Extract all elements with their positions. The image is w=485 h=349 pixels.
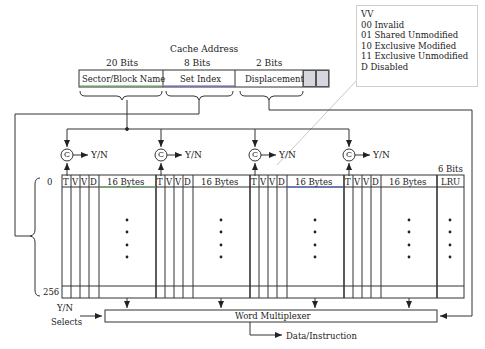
legend-line: VV (361, 9, 473, 20)
displacement-bits-label: 2 Bits (256, 58, 282, 68)
mux-input-selects-label: Selects (51, 317, 82, 327)
mux-input-yn-label: Y/N (57, 303, 73, 313)
valid-column-header: V (363, 177, 369, 187)
set-index-bits-label: 8 Bits (184, 58, 210, 68)
word-multiplexer-label: Word Multiplexer (235, 311, 311, 321)
comparator-icon: C (346, 150, 352, 160)
tag-column-header: T (251, 177, 257, 187)
cache-address-title: Cache Address (170, 44, 238, 54)
data-instruction-output-label: Data/Instruction (286, 331, 357, 341)
comparator-icon: C (64, 150, 70, 160)
legend-line: 00 Invalid (361, 20, 473, 31)
comparator-output: Y/N (279, 150, 296, 160)
valid-column-header: V (81, 177, 87, 187)
disabled-column-header: D (90, 177, 97, 187)
tag-column-header: T (157, 177, 163, 187)
valid-column-header: V (175, 177, 181, 187)
displacement-field: Displacement (245, 74, 304, 84)
valid-column-header: V (269, 177, 275, 187)
tag-column-header: T (345, 177, 351, 187)
comparator-icon: C (252, 150, 258, 160)
valid-bits-legend: VV 00 Invalid 01 Shared Unmodified 10 Ex… (356, 5, 478, 87)
comparator-output: Y/N (91, 150, 108, 160)
disabled-column-header: D (184, 177, 191, 187)
data-column-header: 16 Bytes (389, 177, 426, 187)
valid-column-header: V (354, 177, 360, 187)
sector-bits-label: 20 Bits (106, 58, 138, 68)
data-column-header: 16 Bytes (201, 177, 238, 187)
valid-column-header: V (166, 177, 172, 187)
row-end-label: 256 (43, 287, 59, 297)
valid-column-header: V (260, 177, 266, 187)
set-index-field: Set Index (180, 74, 221, 84)
legend-line: 01 Shared Unmodified (361, 30, 473, 41)
row-start-label: 0 (47, 177, 52, 187)
comparator-icon: C (158, 150, 164, 160)
disabled-column-header: D (278, 177, 285, 187)
comparator-output: Y/N (185, 150, 202, 160)
legend-line: D Disabled (361, 62, 473, 73)
lru-bits-label: 6 Bits (438, 164, 463, 174)
legend-line: 10 Exclusive Modified (361, 41, 473, 52)
legend-line: 11 Exclusive Unmodified (361, 51, 473, 62)
disabled-column-header: D (372, 177, 379, 187)
data-column-header: 16 Bytes (295, 177, 332, 187)
tag-column-header: T (63, 177, 69, 187)
valid-column-header: V (72, 177, 78, 187)
comparator-output: Y/N (373, 150, 390, 160)
lru-column-header: LRU (441, 177, 460, 187)
data-column-header: 16 Bytes (107, 177, 144, 187)
sector-block-name-field: Sector/Block Name (82, 74, 165, 84)
